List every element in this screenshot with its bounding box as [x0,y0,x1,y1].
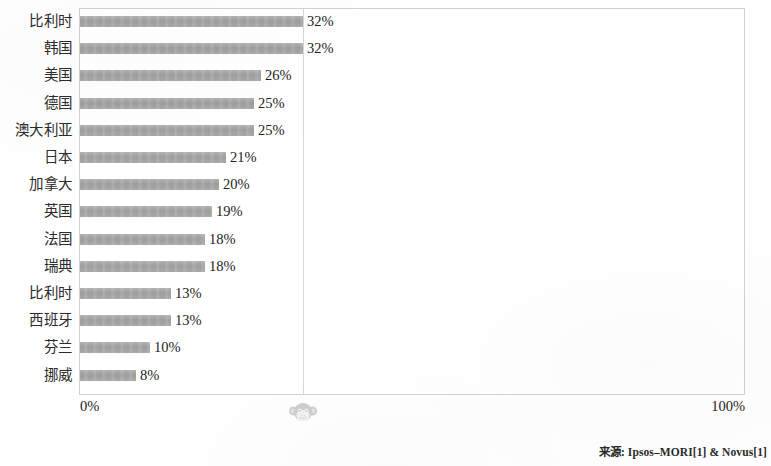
category-label: 德国 [0,90,72,117]
category-label: 英国 [0,198,72,225]
bar-value-label: 32% [307,35,334,62]
bar [80,234,205,245]
category-label: 比利时 [0,280,72,307]
category-label: 日本 [0,144,72,171]
bar-row: 比利时13% [0,280,771,307]
bar-row: 瑞典18% [0,253,771,280]
category-label: 瑞典 [0,253,72,280]
bar [80,125,254,136]
bar-row: 英国19% [0,198,771,225]
bar-value-label: 19% [216,198,243,225]
bar-row: 芬兰10% [0,334,771,361]
bar [80,70,261,81]
bar-chart-figure: 比利时32%韩国32%美国26%德国25%澳大利亚25%日本21%加拿大20%英… [0,0,771,466]
bar-row: 比利时32% [0,8,771,35]
bar [80,152,226,163]
bar-value-label: 13% [175,280,202,307]
category-label: 法国 [0,226,72,253]
bar [80,43,303,54]
bar-value-label: 13% [175,307,202,334]
bar-value-label: 26% [265,62,292,89]
bar-value-label: 8% [140,362,159,389]
bar-value-label: 32% [307,8,334,35]
category-label: 美国 [0,62,72,89]
bar [80,261,205,272]
axis-tick-min: 0% [80,398,99,415]
bar-value-label: 20% [223,171,250,198]
bar-row: 加拿大20% [0,171,771,198]
category-label: 加拿大 [0,171,72,198]
bar-value-label: 18% [209,253,236,280]
bar [80,179,219,190]
source-note: 来源: Ipsos–MORI[1] & Novus[1] [599,443,767,459]
category-label: 挪威 [0,362,72,389]
bar [80,206,212,217]
category-label: 比利时 [0,8,72,35]
category-label: 澳大利亚 [0,117,72,144]
bar [80,370,136,381]
bar-row: 澳大利亚25% [0,117,771,144]
bar-row: 挪威8% [0,362,771,389]
bar [80,315,171,326]
bar-value-label: 10% [154,334,181,361]
bar-value-label: 21% [230,144,257,171]
category-label: 芬兰 [0,334,72,361]
bar-row: 法国18% [0,226,771,253]
gridline-vertical [303,8,304,395]
bar-row: 德国25% [0,90,771,117]
bar-value-label: 18% [209,226,236,253]
bar-row: 日本21% [0,144,771,171]
axis-tick-max: 100% [695,398,745,415]
category-label: 韩国 [0,35,72,62]
bar-row: 美国26% [0,62,771,89]
category-label: 西班牙 [0,307,72,334]
bar [80,16,303,27]
bar-value-label: 25% [258,117,285,144]
bar-value-label: 25% [258,90,285,117]
bar [80,288,171,299]
bar [80,98,254,109]
bar-row: 韩国32% [0,35,771,62]
monkey-face-icon [288,400,318,424]
bar [80,342,150,353]
bar-row: 西班牙13% [0,307,771,334]
